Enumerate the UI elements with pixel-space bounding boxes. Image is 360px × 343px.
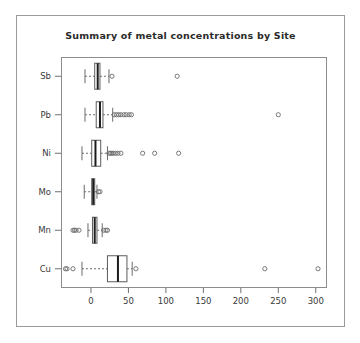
y-axis-label-pb: Pb <box>40 110 51 120</box>
box-cu <box>63 256 320 282</box>
outlier-point <box>153 151 157 155</box>
box-pb <box>85 102 280 128</box>
outlier-point <box>177 151 181 155</box>
x-axis-label-100: 100 <box>158 296 174 306</box>
y-axis-label-mo: Mo <box>38 187 51 197</box>
x-axis-label-0: 0 <box>88 296 93 306</box>
y-axis: SbPbNiMoMnCu <box>38 71 61 274</box>
outlier-point <box>110 74 114 78</box>
y-axis-label-ni: Ni <box>42 148 51 158</box>
y-axis-label-sb: Sb <box>40 71 51 81</box>
outlier-point <box>119 151 123 155</box>
figure-root: Summary of metal concentrations by Site … <box>0 0 360 343</box>
outlier-point <box>263 267 267 271</box>
box-ni <box>82 140 181 166</box>
outlier-point <box>175 74 179 78</box>
x-axis: 050100150200250300 <box>88 288 324 306</box>
x-axis-label-150: 150 <box>195 296 211 306</box>
x-axis-label-50: 50 <box>123 296 134 306</box>
box-sb <box>85 63 179 89</box>
x-axis-label-200: 200 <box>233 296 249 306</box>
outlier-point <box>316 267 320 271</box>
outlier-point <box>276 113 280 117</box>
x-axis-label-300: 300 <box>308 296 324 306</box>
outlier-point <box>141 151 145 155</box>
x-axis-label-250: 250 <box>270 296 286 306</box>
box-mn <box>71 217 110 243</box>
y-axis-label-mn: Mn <box>38 225 51 235</box>
outlier-point <box>77 228 81 232</box>
outlier-point <box>134 267 138 271</box>
outlier-point <box>71 267 75 271</box>
boxplot-canvas: SbPbNiMoMnCu 050100150200250300 <box>0 0 360 343</box>
box-series-group <box>63 63 320 282</box>
y-axis-label-cu: Cu <box>40 264 51 274</box>
box-mo <box>84 179 102 205</box>
